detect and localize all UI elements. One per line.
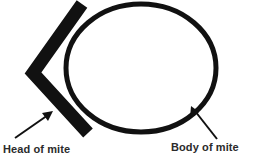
head-label: Head of mite xyxy=(3,143,70,156)
body-arrow-shaft xyxy=(195,111,217,139)
mite-head-chevron xyxy=(33,4,88,133)
head-arrow-shaft xyxy=(15,115,48,138)
head-arrow xyxy=(15,111,53,138)
mite-diagram xyxy=(0,0,253,163)
head-arrow-tip xyxy=(42,111,53,121)
body-label: Body of mite xyxy=(171,141,239,154)
figure-canvas: Head of mite Body of mite xyxy=(0,0,253,163)
body-arrow xyxy=(190,106,217,139)
